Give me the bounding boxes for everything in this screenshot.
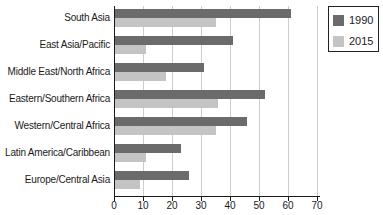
legend-swatch-1990: [333, 15, 344, 26]
bar-1990-5: [114, 144, 181, 153]
x-tick-label-70: 70: [305, 200, 329, 211]
bar-2015-3: [114, 99, 218, 108]
legend-item-2015: 2015: [333, 35, 373, 47]
gridline-40: [230, 6, 231, 196]
x-tick-label-50: 50: [247, 200, 271, 211]
bar-chart: South AsiaEast Asia/PacificMiddle East/N…: [0, 0, 383, 215]
x-tick-label-0: 0: [102, 200, 126, 211]
bar-1990-2: [114, 63, 204, 72]
x-axis-line: [114, 196, 320, 197]
bar-2015-1: [114, 45, 146, 54]
bar-2015-2: [114, 72, 166, 81]
gridline-70: [317, 6, 318, 196]
x-tick-label-10: 10: [131, 200, 155, 211]
legend-label-1990: 1990: [349, 14, 373, 26]
bar-1990-3: [114, 90, 265, 99]
category-label-2: Middle East/North Africa: [0, 66, 110, 78]
category-label-0: South Asia: [0, 12, 110, 24]
category-label-5: Latin America/Caribbean: [0, 147, 110, 159]
plot-area: [114, 6, 317, 196]
bar-1990-0: [114, 9, 291, 18]
bar-2015-4: [114, 126, 216, 135]
gridline-60: [288, 6, 289, 196]
category-label-1: East Asia/Pacific: [0, 39, 110, 51]
bar-2015-0: [114, 18, 216, 27]
category-label-3: Eastern/Southern Africa: [0, 93, 110, 105]
category-label-6: Europe/Central Asia: [0, 174, 110, 186]
x-tick-label-20: 20: [160, 200, 184, 211]
bar-2015-6: [114, 180, 140, 189]
bar-1990-6: [114, 171, 189, 180]
x-tick-label-30: 30: [189, 200, 213, 211]
y-axis-line: [114, 6, 115, 197]
legend-item-1990: 1990: [333, 14, 373, 26]
legend-swatch-2015: [333, 36, 344, 47]
gridline-50: [259, 6, 260, 196]
bar-1990-1: [114, 36, 233, 45]
legend-label-2015: 2015: [349, 35, 373, 47]
bar-1990-4: [114, 117, 247, 126]
bar-2015-5: [114, 153, 146, 162]
x-tick-label-40: 40: [218, 200, 242, 211]
category-label-4: Western/Central Africa: [0, 120, 110, 132]
x-tick-label-60: 60: [276, 200, 300, 211]
legend: 19902015: [328, 6, 379, 52]
